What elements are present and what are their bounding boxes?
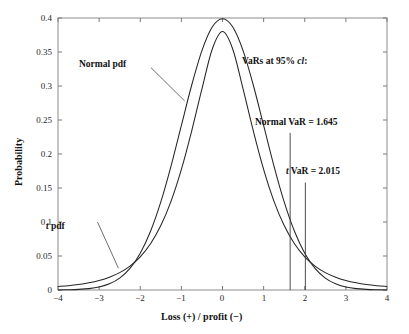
- y-tick-label-015: 0.15: [26, 184, 52, 193]
- x-tick-label-3: 3: [332, 294, 360, 303]
- x-axis-title: Loss (+) / profit (−): [161, 312, 242, 322]
- x-tick-label-1: 1: [250, 294, 278, 303]
- y-tick-label-025: 0.25: [26, 116, 52, 125]
- vars-header-colon: :: [304, 56, 307, 66]
- y-axis-ticks-right: [383, 18, 387, 290]
- x-tick-label-0: 0: [208, 294, 236, 303]
- plot-canvas: [0, 0, 409, 334]
- normal-var-value-label: Normal VaR = 1.645: [255, 118, 337, 128]
- x-axis-ticks: [58, 286, 387, 290]
- vars-header-label: VaRs at 95% cl:: [242, 57, 307, 67]
- annotation-leader-lines: [97, 68, 184, 269]
- normal-pdf-label: Normal pdf: [79, 60, 126, 70]
- x-tick-label-4: 4: [373, 294, 401, 303]
- y-tick-label-02: 0.2: [26, 150, 52, 159]
- vars-header-text: VaRs at 95%: [242, 56, 297, 66]
- y-tick-label-04: 0.4: [26, 14, 52, 23]
- var-marker-lines: [290, 133, 305, 290]
- t-var-value-label: t VaR = 2.015: [286, 167, 340, 177]
- y-axis-title: Probability: [14, 138, 24, 186]
- x-tick-label-m1: −1: [167, 294, 195, 303]
- normal-pdf-label-leader: [151, 68, 185, 101]
- y-tick-label-03: 0.3: [26, 82, 52, 91]
- t-var-label-rest: VaR = 2.015: [289, 166, 340, 176]
- t-pdf-label-leader: [97, 222, 118, 268]
- y-tick-label-035: 0.35: [26, 48, 52, 57]
- t-pdf-label-rest: pdf: [49, 221, 65, 231]
- x-tick-label-m4: −4: [44, 294, 72, 303]
- x-tick-label-m3: −3: [85, 294, 113, 303]
- x-tick-label-m2: −2: [126, 294, 154, 303]
- t-pdf-curve: [58, 32, 387, 287]
- y-axis-ticks: [58, 18, 62, 290]
- probability-density-chart: 0 0.05 0.1 0.15 0.2 0.25 0.3 0.35 0.4 −4…: [0, 0, 409, 334]
- y-tick-label-005: 0.05: [26, 252, 52, 261]
- t-pdf-label: t pdf: [46, 222, 65, 232]
- x-tick-label-2: 2: [291, 294, 319, 303]
